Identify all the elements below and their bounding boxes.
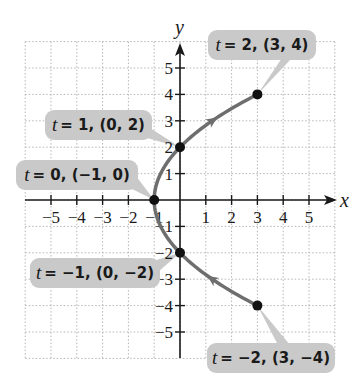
data-point bbox=[175, 142, 185, 152]
x-tick-label: 3 bbox=[253, 208, 262, 227]
callout-text: = 2, (3, 4) bbox=[224, 36, 309, 54]
x-axis-label: x bbox=[339, 189, 349, 211]
x-tick-label: −5 bbox=[42, 208, 60, 227]
callout-t-variable: t bbox=[36, 262, 41, 284]
callout-t0: t = 0, (−1, 0) bbox=[16, 160, 138, 190]
callout-text: = 1, (0, 2) bbox=[60, 116, 145, 134]
callout-tail bbox=[257, 306, 290, 345]
x-tick-label: −2 bbox=[119, 208, 137, 227]
data-point bbox=[252, 301, 262, 311]
x-tick-label: 5 bbox=[305, 208, 314, 227]
x-tick-label: 1 bbox=[202, 208, 211, 227]
y-tick-label: 5 bbox=[165, 59, 174, 78]
callout-t-variable: t bbox=[212, 347, 217, 369]
y-tick-label: −4 bbox=[155, 297, 174, 316]
x-tick-label: −3 bbox=[94, 208, 112, 227]
callout-text: = −2, (3, −4) bbox=[220, 349, 330, 367]
y-tick-label: 3 bbox=[165, 112, 174, 131]
x-tick-label: −4 bbox=[68, 208, 87, 227]
data-point bbox=[149, 195, 159, 205]
callout-t2: t = 2, (3, 4) bbox=[208, 30, 316, 60]
callout-t-variable: t bbox=[216, 34, 221, 56]
callout-tail bbox=[257, 58, 292, 94]
x-tick-label: 2 bbox=[227, 208, 236, 227]
y-axis-label: y bbox=[173, 16, 184, 39]
callout-text: = 0, (−1, 0) bbox=[33, 166, 130, 184]
x-tick-label: 4 bbox=[279, 208, 288, 227]
callout-text: = −1, (0, −2) bbox=[44, 264, 154, 282]
data-point bbox=[252, 89, 262, 99]
callout-t-variable: t bbox=[24, 164, 29, 186]
y-tick-label: 4 bbox=[165, 85, 174, 104]
callout-t-variable: t bbox=[52, 114, 57, 136]
data-point bbox=[175, 248, 185, 258]
callout-t-minus1: t = −1, (0, −2) bbox=[30, 258, 160, 288]
callout-t-minus2: t = −2, (3, −4) bbox=[207, 343, 335, 373]
callout-t1: t = 1, (0, 2) bbox=[45, 110, 152, 140]
y-tick-label: −5 bbox=[155, 323, 173, 342]
